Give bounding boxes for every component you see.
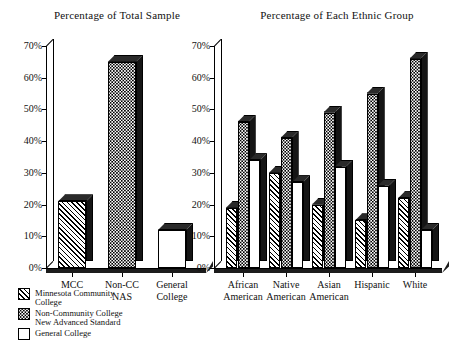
y-axis-tick-label: 50%: [184, 104, 210, 114]
y-axis-tick-label: 70%: [16, 41, 42, 51]
legend-item-noncc-nas: Non-Community College New Advanced Stand…: [18, 308, 123, 328]
bar: [108, 62, 136, 268]
bar: [335, 167, 346, 268]
bar-front-face: [108, 62, 136, 268]
bar: [158, 230, 186, 268]
legend-item-mcc: Minnesota Community College: [18, 288, 115, 308]
y-axis-tick-label: 70%: [184, 41, 210, 51]
y-axis-tick-label: 50%: [16, 104, 42, 114]
bar: [281, 138, 292, 268]
y-axis-tick-label: 60%: [16, 73, 42, 83]
bar-side-face: [389, 179, 396, 261]
bar-front-face: [269, 173, 280, 268]
bar-front-face: [410, 59, 421, 268]
y-axis-tick-label: 30%: [184, 168, 210, 178]
bar-front-face: [398, 198, 409, 268]
y-axis-tick-label: 10%: [16, 231, 42, 241]
bar-front-face: [324, 113, 335, 268]
legend-swatch-dots-icon: [18, 308, 30, 320]
legend-swatch-plain-icon: [18, 328, 30, 340]
y-axis-tick-label: 0%: [184, 263, 210, 273]
bar: [269, 173, 280, 268]
bar-front-face: [158, 230, 186, 268]
x-axis-tick-mark: [122, 273, 123, 277]
left-chart-plot: 0%10%20%30%40%50%60%70%MCCNon-CC NASGene…: [0, 36, 215, 296]
bar-front-face: [421, 230, 432, 268]
bar: [398, 198, 409, 268]
bar-side-face: [346, 160, 353, 261]
bar: [58, 201, 86, 268]
bar-side-face: [303, 175, 310, 261]
bar-side-face: [136, 55, 143, 261]
bar-front-face: [335, 167, 346, 268]
bar-side-face: [260, 153, 267, 261]
x-axis-tick-mark: [372, 273, 373, 277]
y-axis-tick-label: 20%: [184, 200, 210, 210]
legend-swatch-hatch-icon: [18, 288, 30, 300]
chart-legend: Minnesota Community College Non-Communit…: [18, 288, 208, 344]
right-chart-title: Percentage of Each Ethnic Group: [222, 9, 452, 21]
y-axis-back-line: [53, 39, 54, 261]
x-axis-tick-mark: [286, 273, 287, 277]
y-axis-tick-label: 60%: [184, 73, 210, 83]
y-axis-tick-label: 0%: [16, 263, 42, 273]
bar-front-face: [312, 205, 323, 268]
right-chart-plot: 0%10%20%30%40%50%60%70%African AmericanN…: [196, 36, 466, 296]
bar: [226, 208, 237, 268]
x-axis-tick-mark: [243, 273, 244, 277]
chart-floor-front: [46, 269, 206, 273]
bar: [421, 230, 432, 268]
bar-front-face: [249, 160, 260, 268]
bar-front-face: [58, 201, 86, 268]
bar-front-face: [238, 122, 249, 268]
bar-front-face: [355, 220, 366, 268]
bar: [312, 205, 323, 268]
legend-label-general-college: General College: [35, 328, 91, 338]
bar: [355, 220, 366, 268]
y-axis-tick-label: 20%: [16, 200, 42, 210]
bar-front-face: [281, 138, 292, 268]
bar: [249, 160, 260, 268]
x-axis-category-label: White: [379, 279, 451, 291]
legend-label-noncc-nas: Non-Community College New Advanced Stand…: [35, 308, 123, 328]
legend-label-mcc: Minnesota Community College: [35, 288, 115, 308]
y-axis-line: [214, 46, 215, 268]
bar-front-face: [292, 182, 303, 268]
y-axis-tick-label: 40%: [184, 136, 210, 146]
bar: [367, 94, 378, 268]
chart-page: Percentage of Total Sample 0%10%20%30%40…: [0, 0, 466, 350]
bar-front-face: [226, 208, 237, 268]
bar: [378, 186, 389, 268]
y-axis-line: [46, 46, 47, 268]
x-axis-tick-mark: [415, 273, 416, 277]
y-axis-tick-label: 30%: [16, 168, 42, 178]
bar-side-face: [86, 194, 93, 261]
chart-floor-front: [214, 269, 442, 273]
bar: [292, 182, 303, 268]
x-axis-tick-mark: [172, 273, 173, 277]
y-axis-back-line: [221, 39, 222, 261]
bar: [238, 122, 249, 268]
y-axis-tick-label: 40%: [16, 136, 42, 146]
x-axis-tick-mark: [72, 273, 73, 277]
left-chart-title: Percentage of Total Sample: [22, 9, 212, 21]
bar: [410, 59, 421, 268]
x-axis-tick-mark: [329, 273, 330, 277]
bar: [324, 113, 335, 268]
bar-front-face: [367, 94, 378, 268]
legend-item-general-college: General College: [18, 328, 91, 340]
bar-front-face: [378, 186, 389, 268]
